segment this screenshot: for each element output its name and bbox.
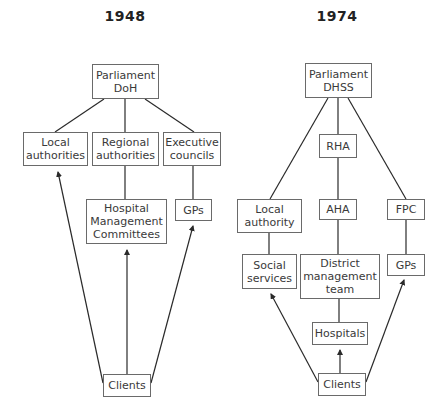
node-label: Clients — [323, 378, 361, 391]
node-executive-councils: Executive councils — [163, 132, 221, 166]
node-label: Local authority — [244, 203, 294, 229]
node-hospital-management-committees: Hospital Management Committees — [86, 199, 167, 244]
node-district-management-team: District management team — [300, 254, 380, 299]
node-parliament-dhss: Parliament DHSS — [305, 63, 372, 98]
node-fpc: FPC — [387, 199, 425, 220]
node-label: FPC — [396, 203, 417, 216]
node-aha: AHA — [319, 199, 357, 220]
node-clients-1974: Clients — [318, 373, 366, 396]
node-label: RHA — [326, 140, 349, 153]
node-label: Parliament DoH — [96, 69, 155, 95]
node-gps-1948: GPs — [175, 199, 212, 221]
connector-lines — [0, 0, 443, 415]
node-label: GPs — [396, 259, 417, 272]
node-local-authority: Local authority — [237, 199, 302, 233]
node-local-authorities: Local authorities — [23, 132, 88, 166]
node-clients-1948: Clients — [103, 374, 151, 397]
node-label: District management team — [303, 257, 377, 296]
node-label: Executive councils — [165, 136, 219, 162]
node-social-services: Social services — [242, 254, 297, 289]
node-label: Local authorities — [26, 136, 85, 162]
node-label: Clients — [108, 379, 146, 392]
node-label: Regional authorities — [96, 136, 155, 162]
node-label: Parliament DHSS — [309, 68, 368, 94]
node-label: Social services — [247, 259, 292, 285]
diagram-title-1948: 1948 — [105, 8, 146, 24]
node-gps-1974: GPs — [387, 254, 425, 276]
node-label: Hospital Management Committees — [90, 202, 162, 241]
node-label: AHA — [326, 203, 349, 216]
diagram-title-1974: 1974 — [317, 8, 358, 24]
node-rha: RHA — [319, 134, 357, 158]
node-parliament-doh: Parliament DoH — [92, 64, 159, 99]
node-hospitals: Hospitals — [312, 322, 368, 345]
node-regional-authorities: Regional authorities — [92, 132, 159, 166]
node-label: GPs — [183, 204, 204, 217]
node-label: Hospitals — [315, 327, 366, 340]
